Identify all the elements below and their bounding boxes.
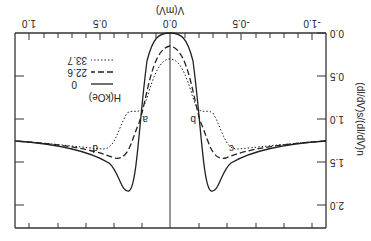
- svg-text:-0.5: -0.5: [232, 18, 250, 29]
- chart-figure: -1.0 -0.5 0.0 0.5 1.0 V(mV) 0.0 0.5 1.0 …: [0, 0, 371, 241]
- svg-text:1.0: 1.0: [22, 18, 36, 29]
- svg-text:0: 0: [71, 79, 77, 90]
- svg-text:a: a: [142, 114, 148, 125]
- svg-text:1.0: 1.0: [330, 114, 344, 125]
- x-axis-title: V(mV): [156, 5, 184, 16]
- svg-text:H(kOe): H(kOe): [89, 92, 121, 103]
- svg-text:d: d: [92, 143, 98, 154]
- svg-text:0.0: 0.0: [330, 28, 344, 39]
- svg-text:2.0: 2.0: [330, 200, 344, 211]
- legend: H(kOe) 0 22.6 33.7: [67, 55, 121, 103]
- svg-text:33.7: 33.7: [67, 55, 87, 66]
- svg-text:0.5: 0.5: [330, 71, 344, 82]
- svg-text:c: c: [229, 143, 234, 154]
- y-tick-labels: 0.0 0.5 1.0 1.5 2.0: [330, 28, 344, 211]
- svg-text:-1.0: -1.0: [303, 18, 321, 29]
- svg-text:22.6: 22.6: [67, 67, 87, 78]
- point-labels: a b c d: [92, 114, 234, 154]
- y-axis-title: (dI/dV)s/(dI/dV)n: [355, 82, 366, 155]
- x-tick-labels: -1.0 -0.5 0.0 0.5 1.0: [22, 18, 321, 29]
- svg-text:b: b: [190, 114, 196, 125]
- svg-text:0.0: 0.0: [163, 18, 177, 29]
- plot-frame: [15, 33, 326, 228]
- svg-text:1.5: 1.5: [330, 157, 344, 168]
- svg-text:0.5: 0.5: [93, 18, 107, 29]
